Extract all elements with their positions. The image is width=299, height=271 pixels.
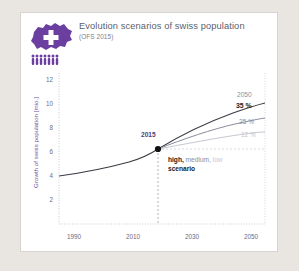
chart-subtitle: (OFS 2015) [79,33,113,40]
annotation-2050: 2050 [237,91,252,98]
legend-low: low [213,156,223,163]
swiss-map-cross-icon [29,18,75,66]
x-tick-1990: 1990 [67,233,81,240]
card-header: Evolution scenarios of swiss population … [21,13,277,69]
chart-legend: high, medium, low scenario [168,155,223,173]
chart-card: Evolution scenarios of swiss population … [20,12,278,252]
screenshot-root: Evolution scenarios of swiss population … [0,0,299,271]
x-tick-2030: 2030 [185,233,199,240]
x-tick-2010: 2010 [126,233,140,240]
people-row-icon [32,55,59,66]
legend-medium: medium, [186,156,211,163]
x-axis-ticks: 1990 2010 2030 2050 [21,229,277,247]
x-tick-2050: 2050 [244,233,258,240]
annotation-2015: 2015 [141,131,156,138]
legend-high: high, [168,156,184,163]
chart-title: Evolution scenarios of swiss population [79,21,245,31]
chart-plot-area: Growth of swiss population [mio.] 12 10 … [21,69,277,253]
legend-scenario: scenario [168,165,195,172]
annotation-low-pct: 12 % [241,131,256,138]
annotation-medium-pct: 25 % [239,118,254,125]
annotation-high-pct: 35 % [236,102,252,109]
